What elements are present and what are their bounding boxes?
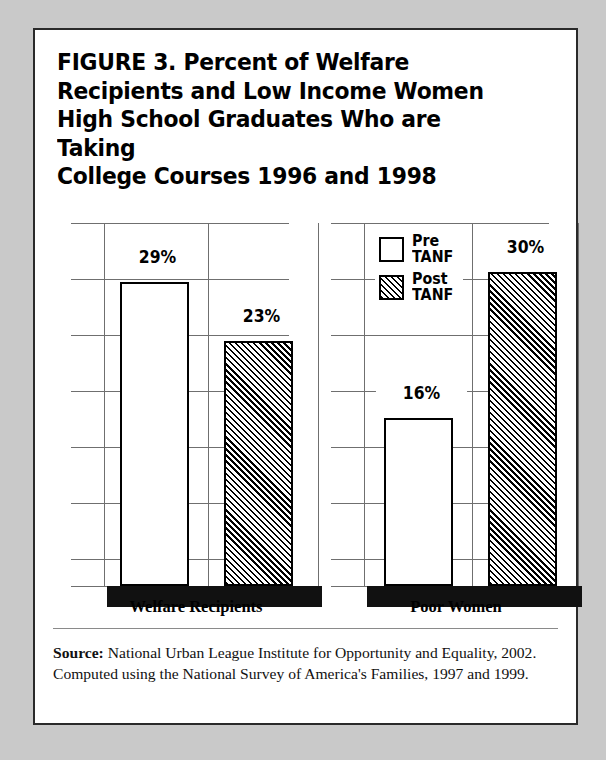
bar-poor-women-post-tanf[interactable] [488,272,557,586]
page-background: FIGURE 3. Percent of Welfare Recipients … [0,0,606,760]
source-divider [53,628,558,629]
gridline-vertical-right [318,223,319,586]
legend-label: Post TANF [412,271,453,303]
chart-panel-welfare-recipients: 29% 23% Welfare Recipients [71,205,321,615]
legend-swatch-pre-tanf-icon [379,237,404,262]
gridline-vertical-middle [472,223,473,586]
category-label-welfare-recipients: Welfare Recipients [71,597,321,617]
bar-poor-women-pre-tanf[interactable] [384,418,453,586]
legend-swatch-post-tanf-icon [379,275,404,300]
figure-card: FIGURE 3. Percent of Welfare Recipients … [33,28,578,725]
gridline-vertical-left [364,223,365,586]
bar-welfare-recipients-pre-tanf[interactable] [120,282,189,586]
chart-plot-area: 29% 23% Welfare Recipients [35,205,576,615]
legend-item-post-tanf[interactable]: Post TANF [379,271,457,303]
chart-legend: Pre TANF Post TANF [375,229,463,307]
gridline-vertical-middle [208,223,209,586]
gridline-vertical-right [578,223,579,586]
gridline-vertical-left [104,223,105,586]
chart-panel-poor-women: Pre TANF Post TANF 16% 30% Poor Women [331,205,581,615]
bar-welfare-recipients-post-tanf[interactable] [224,341,293,586]
legend-item-pre-tanf[interactable]: Pre TANF [379,233,457,265]
source-note: Source: National Urban League Institute … [53,642,548,684]
source-label: Source: [53,644,104,661]
bar-value-label: 16% [376,383,467,403]
legend-label: Pre TANF [412,233,453,265]
page-title: FIGURE 3. Percent of Welfare Recipients … [57,48,522,191]
source-text: National Urban League Institute for Oppo… [53,644,536,682]
bar-value-label: 23% [216,306,307,326]
bar-value-label: 29% [112,247,203,267]
category-label-poor-women: Poor Women [331,597,581,617]
bar-value-label: 30% [480,237,571,257]
